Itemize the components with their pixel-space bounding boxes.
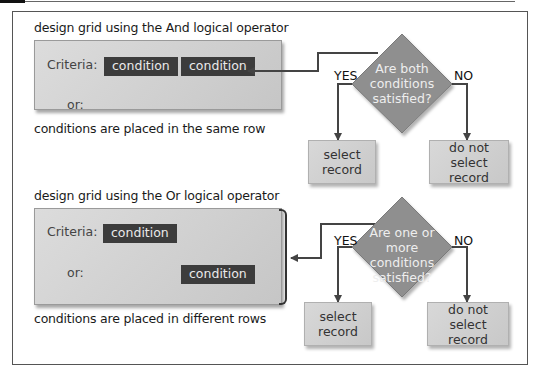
result-line: select bbox=[318, 309, 358, 324]
decision-line: satisfied? bbox=[362, 91, 442, 106]
and-do-not-select-box: do not select record bbox=[429, 140, 509, 184]
and-no-arrow bbox=[452, 84, 467, 140]
and-decision-text: Are both conditions satisfied? bbox=[362, 61, 442, 106]
and-yes-arrow bbox=[338, 84, 352, 140]
result-line: record bbox=[322, 162, 362, 177]
decision-line: satisfied? bbox=[352, 270, 452, 285]
result-line: select bbox=[322, 147, 362, 162]
decision-line: conditions bbox=[362, 76, 442, 91]
result-line: select record bbox=[430, 155, 508, 185]
decision-line: more conditions bbox=[352, 240, 452, 270]
and-feedback-arrow bbox=[248, 53, 378, 71]
result-line: record bbox=[318, 324, 358, 339]
or-no-arrow bbox=[452, 247, 467, 302]
or-yes-arrow bbox=[338, 247, 352, 302]
and-select-record-box: select record bbox=[308, 140, 376, 184]
or-yes-label: YES bbox=[334, 233, 357, 248]
result-line: do not bbox=[430, 140, 508, 155]
or-no-label: NO bbox=[454, 233, 473, 248]
or-do-not-select-box: do not select record bbox=[427, 302, 509, 346]
and-no-label: NO bbox=[454, 68, 473, 83]
decision-line: Are both bbox=[362, 61, 442, 76]
decision-line: Are one or bbox=[352, 225, 452, 240]
or-select-record-box: select record bbox=[304, 302, 372, 346]
result-line: select record bbox=[428, 317, 508, 347]
and-yes-label: YES bbox=[334, 68, 357, 83]
or-decision-text: Are one or more conditions satisfied? bbox=[352, 225, 452, 285]
result-line: do not bbox=[428, 302, 508, 317]
